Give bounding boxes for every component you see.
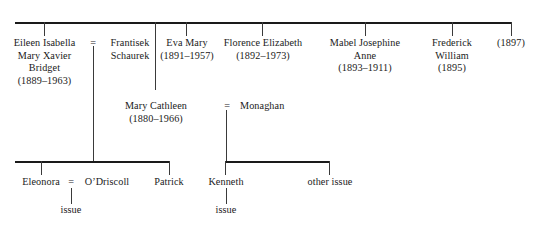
connector-tick-other-issue	[329, 161, 330, 175]
generation1-sibling-bar	[15, 22, 512, 24]
person-florence-elizabeth: Florence Elizabeth (1892–1973)	[215, 37, 311, 62]
person-kenneth: Kenneth	[198, 176, 254, 189]
generation3-sibling-bar-right	[225, 161, 330, 163]
person-frederick-william: Frederick William (1895)	[419, 37, 485, 75]
person-dates: (1893–1911)	[316, 62, 414, 75]
issue-text: issue	[47, 204, 95, 217]
person-name-line1: Mary Cathleen	[120, 100, 192, 113]
issue-label-left: issue	[47, 204, 95, 217]
issue-text: issue	[202, 204, 250, 217]
issue-label-right: issue	[202, 204, 250, 217]
person-dates: (1891–1957)	[154, 50, 220, 63]
connector-tick-frederick	[452, 22, 453, 36]
person-name-line2: Anne	[316, 50, 414, 63]
person-name-line3: Bridget	[0, 62, 89, 75]
issue-drop-eleonora-odriscoll	[71, 188, 72, 204]
person-dates: (1880–1966)	[120, 113, 192, 126]
person-name-line1: Florence Elizabeth	[215, 37, 311, 50]
connector-tick-mabel	[365, 22, 366, 36]
person-dates: (1889–1963)	[0, 75, 89, 88]
connector-tick-kenneth	[225, 161, 226, 175]
person-name-line1: Kenneth	[198, 176, 254, 189]
person-name-line2: Mary Xavier	[0, 50, 89, 63]
person-name-line1: O’Driscoll	[76, 176, 138, 189]
person-mary-cathleen: Mary Cathleen (1880–1966)	[120, 100, 192, 125]
person-unnamed-1897: (1897)	[485, 37, 537, 50]
person-name-line1: Eleonora	[13, 176, 69, 189]
generation3-sibling-bar-left	[15, 161, 170, 163]
person-dates: (1895)	[419, 62, 485, 75]
person-eileen-isabella: Eileen Isabella Mary Xavier Bridget (188…	[0, 37, 89, 87]
person-name-line1: Eva Mary	[154, 37, 220, 50]
marriage-drop-mary-monaghan	[226, 110, 227, 162]
person-name-line2: William	[419, 50, 485, 63]
person-mabel-josephine-anne: Mabel Josephine Anne (1893–1911)	[316, 37, 414, 75]
person-eleonora: Eleonora	[13, 176, 69, 189]
connector-tick-eva-mary	[186, 22, 187, 36]
person-monaghan: Monaghan	[240, 100, 310, 113]
marriage-drop-eileen-frantisek	[93, 46, 94, 162]
connector-tick-eileen	[44, 22, 45, 36]
connector-tick-1897	[511, 22, 512, 36]
person-name-line1: Frederick	[419, 37, 485, 50]
person-dates: (1892–1973)	[215, 50, 311, 63]
person-odriscoll: O’Driscoll	[76, 176, 138, 189]
connector-tick-eleonora	[41, 161, 42, 175]
person-name-line1: Mabel Josephine	[316, 37, 414, 50]
issue-drop-kenneth	[226, 188, 227, 204]
family-tree-diagram: Eileen Isabella Mary Xavier Bridget (188…	[0, 0, 537, 230]
connector-tick-patrick	[169, 161, 170, 175]
person-name-line1: Patrick	[141, 176, 197, 189]
connector-tick-florence	[262, 22, 263, 36]
person-name-line1: Monaghan	[240, 100, 310, 113]
person-other-issue: other issue	[294, 176, 366, 189]
person-dates: (1897)	[485, 37, 537, 50]
person-name-line1: other issue	[294, 176, 366, 189]
person-name-line1: Eileen Isabella	[0, 37, 89, 50]
person-eva-mary: Eva Mary (1891–1957)	[154, 37, 220, 62]
person-patrick: Patrick	[141, 176, 197, 189]
